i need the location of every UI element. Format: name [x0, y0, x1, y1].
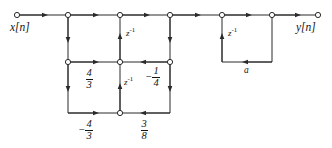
node-top-3: [117, 12, 122, 17]
node-middle-center: [117, 59, 122, 64]
flow-graph-canvas: [0, 0, 332, 148]
node-top-4: [167, 12, 172, 17]
coefficient-bottom-feedback-denominator: 8: [141, 130, 148, 142]
delay-label-feedback-loop: z-1: [228, 27, 237, 38]
coefficient-middle-feedback: − 1 4: [146, 66, 160, 89]
coefficient-bottom-forward-denominator: 3: [85, 130, 92, 142]
node-bottom-center: [117, 110, 122, 115]
coefficient-middle-feedback-sign: −: [146, 72, 152, 83]
signal-flow-graph-diagram: x[n] y[n] z-1 z-1 z-1 a 4 3 − 1 4 − 4 3 …: [0, 0, 332, 148]
coefficient-bottom-forward-sign: −: [79, 125, 85, 136]
graph-nodes: [14, 12, 320, 115]
coefficient-bottom-feedback: 3 8: [140, 119, 148, 142]
coefficient-middle-feedback-numerator: 1: [152, 66, 159, 77]
output-signal-label: y[n]: [296, 22, 316, 34]
node-input: [14, 12, 19, 17]
node-output: [315, 12, 320, 17]
coefficient-bottom-forward-numerator: 4: [85, 119, 92, 130]
delay-label-lower: z-1: [124, 76, 133, 87]
feedback-gain-label: a: [244, 66, 249, 76]
feedback-loop-branches: [222, 15, 272, 62]
coefficient-middle-feedback-denominator: 4: [152, 77, 159, 89]
node-middle-right: [167, 59, 172, 64]
node-top-2: [65, 12, 70, 17]
coefficient-middle-forward-numerator: 4: [86, 68, 93, 79]
coefficient-middle-forward-denominator: 3: [86, 79, 93, 91]
coefficient-bottom-forward: − 4 3: [79, 119, 93, 142]
node-top-5: [219, 12, 224, 17]
input-signal-label: x[n]: [10, 22, 30, 34]
node-middle-left: [65, 59, 70, 64]
delay-label-upper: z-1: [126, 27, 135, 38]
coefficient-bottom-feedback-numerator: 3: [141, 119, 148, 130]
coefficient-middle-forward: 4 3: [85, 68, 93, 91]
node-top-6: [269, 12, 274, 17]
